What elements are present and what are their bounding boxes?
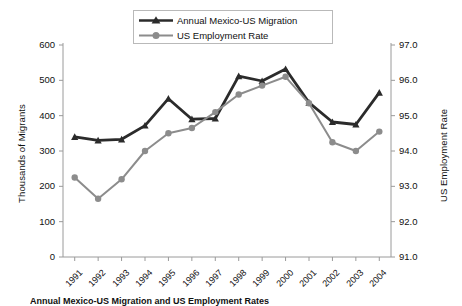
axis-lines [63,43,391,257]
y-axis-left-tick-label: 200 [21,180,55,191]
y-axis-left-tick-label: 600 [21,39,55,50]
y-axis-left-tick-label: 300 [21,145,55,156]
y-axis-right-tick-label: 91.0 [399,251,435,262]
y-axis-left-tick-label: 400 [21,110,55,121]
tick-marks [59,45,395,261]
series-layer [71,65,383,202]
y-axis-right-tick-label: 93.0 [399,180,435,191]
y-axis-left-tick-label: 0 [21,251,55,262]
legend-item-migration: Annual Mexico-US Migration [138,13,332,28]
legend-marker-triangle-icon [138,14,174,27]
y-axis-right-tick-label: 97.0 [399,39,435,50]
y-axis-right-title: US Employment Rate [438,89,449,223]
figure-caption: Annual Mexico-US Migration and US Employ… [30,296,450,306]
legend-marker-circle-icon [138,29,174,42]
legend-item-employment: US Employment Rate [138,28,332,43]
legend-label-migration: Annual Mexico-US Migration [177,15,297,26]
y-axis-right-tick-label: 96.0 [399,74,435,85]
y-axis-left-tick-label: 500 [21,74,55,85]
y-axis-left-tick-label: 100 [21,216,55,227]
legend-label-employment: US Employment Rate [177,30,268,41]
y-axis-right-tick-label: 92.0 [399,216,435,227]
y-axis-right-tick-label: 94.0 [399,145,435,156]
y-axis-right-tick-label: 95.0 [399,110,435,121]
chart-legend: Annual Mexico-US Migration US Employment… [133,10,333,44]
